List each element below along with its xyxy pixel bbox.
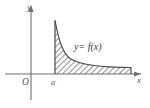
origin-label: O — [22, 77, 29, 87]
x-axis-label: x — [136, 75, 141, 85]
curve-equation-label: y= f(x) — [73, 41, 102, 53]
figure-container: y x O a y= f(x) — [0, 0, 150, 108]
coordinate-plot: y x O a y= f(x) — [0, 0, 150, 108]
y-axis-label: y — [26, 2, 31, 12]
x-tick-label-a: a — [51, 77, 55, 87]
